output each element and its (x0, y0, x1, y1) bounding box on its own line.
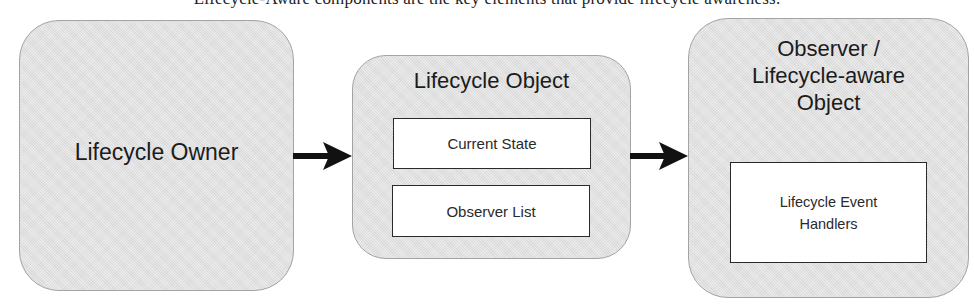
observer-list-box: Observer List (392, 185, 590, 237)
lifecycle-event-handlers-label: Lifecycle Event Handlers (780, 191, 878, 235)
arrow-right-icon (293, 138, 353, 174)
handlers-label-line-1: Lifecycle Event (780, 191, 878, 213)
current-state-box: Current State (393, 118, 591, 169)
lifecycle-object-node: Lifecycle Object Current State Observer … (352, 55, 631, 259)
observer-node: Observer / Lifecycle-aware Object Lifecy… (688, 18, 969, 298)
observer-title-line-1: Observer / (689, 35, 968, 62)
arrow-right-icon (630, 138, 689, 174)
current-state-label: Current State (447, 135, 536, 152)
lifecycle-owner-node: Lifecycle Owner (19, 20, 294, 291)
handlers-label-line-2: Handlers (780, 213, 878, 235)
diagram-caption: Lifecycle-Aware components are the key e… (0, 0, 974, 9)
observer-list-label: Observer List (446, 203, 535, 220)
lifecycle-owner-title: Lifecycle Owner (20, 139, 293, 166)
observer-title: Observer / Lifecycle-aware Object (689, 35, 968, 116)
observer-title-line-2: Lifecycle-aware (689, 62, 968, 89)
lifecycle-object-title: Lifecycle Object (353, 68, 630, 94)
lifecycle-event-handlers-box: Lifecycle Event Handlers (730, 162, 927, 263)
observer-title-line-3: Object (689, 89, 968, 116)
